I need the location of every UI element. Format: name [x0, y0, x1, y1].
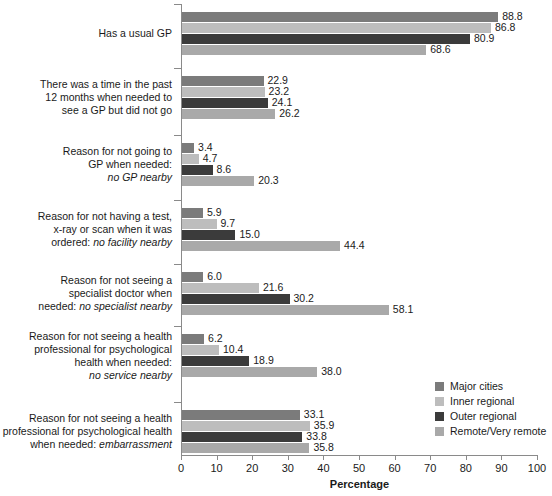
bar-row: 44.4 [182, 241, 552, 251]
bar-value-label: 6.2 [208, 332, 223, 345]
bar [182, 356, 249, 366]
category-label-line: Has a usual GP [0, 27, 172, 40]
legend-label: Outer regional [450, 410, 517, 422]
category-label: Reason for not seeing aspecialist doctor… [0, 274, 172, 313]
chart-legend: Major citiesInner regionalOuter regional… [435, 379, 546, 439]
x-axis-tick [359, 455, 360, 460]
x-axis-tick-label: 70 [410, 462, 450, 474]
category-label-line: see a GP but did not go [0, 104, 172, 117]
bar-stack: 5.99.715.044.4 [182, 208, 552, 252]
category-tick [174, 68, 182, 69]
legend-item[interactable]: Inner regional [435, 394, 546, 408]
bar-row: 6.0 [182, 272, 552, 282]
x-axis-tick-label: 10 [197, 462, 237, 474]
x-axis-tick [217, 455, 218, 460]
x-axis-tick-label: 90 [481, 462, 521, 474]
bar-row: 18.9 [182, 356, 552, 366]
legend-swatch-icon [435, 427, 444, 436]
bar [182, 410, 300, 420]
category-label-line: Reason for not seeing a health [0, 412, 172, 425]
x-axis-tick-label: 0 [161, 462, 201, 474]
bar [182, 12, 498, 22]
bar-value-label: 6.0 [207, 270, 222, 283]
x-axis-tick [252, 455, 253, 460]
x-axis-tick-label: 100 [517, 462, 552, 474]
x-axis-title: Percentage [181, 478, 538, 490]
category-tick [174, 200, 182, 201]
category-label-line: ordered: no facility nearby [0, 236, 172, 249]
category-label-line: no service nearby [0, 369, 172, 382]
x-axis-tick-label: 80 [446, 462, 486, 474]
bar-row: 86.8 [182, 23, 552, 33]
bar-stack: 88.886.880.968.6 [182, 12, 552, 56]
bar-value-label: 68.6 [430, 43, 450, 56]
category-label: Reason for not going toGP when needed:no… [0, 145, 172, 184]
bar-value-label: 26.2 [279, 107, 299, 120]
bar-row: 38.0 [182, 367, 552, 377]
bar-row: 80.9 [182, 34, 552, 44]
bar-row: 15.0 [182, 230, 552, 240]
bar-row: 3.4 [182, 143, 552, 153]
x-axis-tick-label: 40 [303, 462, 343, 474]
x-axis-tick [323, 455, 324, 460]
bar [182, 305, 389, 315]
bar-value-label: 8.6 [217, 163, 232, 176]
category-label-line: There was a time in the past [0, 78, 172, 91]
bar [182, 230, 235, 240]
bar [182, 76, 264, 86]
category-label-line: health when needed: [0, 356, 172, 369]
bar-row: 35.8 [182, 443, 552, 453]
category-tick [174, 135, 182, 136]
legend-item[interactable]: Major cities [435, 379, 546, 393]
bar-row: 20.3 [182, 176, 552, 186]
category-label-line: Reason for not going to [0, 145, 172, 158]
bar-value-label: 44.4 [344, 239, 364, 252]
bar [182, 334, 204, 344]
bar-stack: 22.923.224.126.2 [182, 76, 552, 120]
x-axis-tick-label: 30 [268, 462, 308, 474]
legend-item[interactable]: Outer regional [435, 409, 546, 423]
bar-value-label: 20.3 [258, 174, 278, 187]
legend-swatch-icon [435, 382, 444, 391]
bar-row: 9.7 [182, 219, 552, 229]
category-tick [174, 326, 182, 327]
bar-value-label: 21.6 [263, 281, 283, 294]
x-axis-tick [466, 455, 467, 460]
bar-stack: 6.210.418.938.0 [182, 334, 552, 378]
category-label-line: 12 months when needed to [0, 91, 172, 104]
category-label-line: GP when needed: [0, 158, 172, 171]
category-label-line: professional for psychological [0, 343, 172, 356]
bar-row: 23.2 [182, 87, 552, 97]
category-label-line: Reason for not seeing a [0, 274, 172, 287]
category-label: Reason for not having a test,x-ray or sc… [0, 210, 172, 249]
bar [182, 241, 340, 251]
x-axis-tick [395, 455, 396, 460]
bar-value-label: 10.4 [223, 343, 243, 356]
bar [182, 294, 290, 304]
bar-value-label: 38.0 [321, 365, 341, 378]
bar [182, 143, 194, 153]
x-axis-tick [501, 455, 502, 460]
bar-row: 21.6 [182, 283, 552, 293]
x-axis-tick [537, 455, 538, 460]
category-label-line: Reason for not seeing a health [0, 330, 172, 343]
bar [182, 367, 317, 377]
bar [182, 443, 309, 453]
legend-item[interactable]: Remote/Very remote [435, 424, 546, 438]
bar [182, 34, 470, 44]
bar-value-label: 18.9 [253, 354, 273, 367]
bar [182, 176, 254, 186]
category-label-line: x-ray or scan when it was [0, 223, 172, 236]
category-label-line: needed: no specialist nearby [0, 300, 172, 313]
bar-value-label: 58.1 [393, 303, 413, 316]
bar-row: 10.4 [182, 345, 552, 355]
bar-value-label: 4.7 [203, 152, 218, 165]
category-label-line: Reason for not having a test, [0, 210, 172, 223]
bar-row: 8.6 [182, 165, 552, 175]
bar-value-label: 5.9 [207, 206, 222, 219]
bar [182, 421, 310, 431]
x-axis-tick [288, 455, 289, 460]
bar-row: 22.9 [182, 76, 552, 86]
category-label: Has a usual GP [0, 27, 172, 40]
bar [182, 283, 259, 293]
